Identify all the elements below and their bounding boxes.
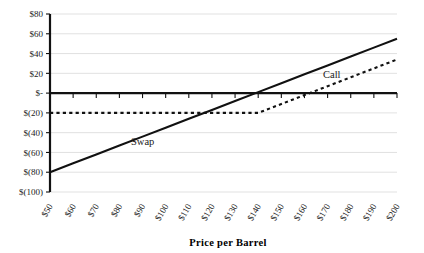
x-tick-label: $200 (384, 202, 402, 223)
x-tick-label: $190 (361, 202, 379, 223)
x-tick-label: $150 (268, 202, 286, 223)
x-axis-labels: $50$60$70$80$90$100$110$120$130$140$150$… (39, 202, 402, 223)
x-tick-label: $130 (222, 202, 240, 223)
gridline-group (50, 14, 397, 192)
x-tick-label: $120 (199, 202, 217, 223)
x-tick-label: $180 (338, 202, 356, 223)
y-tick-label: $80 (30, 9, 44, 19)
x-tick-label: $80 (109, 202, 125, 219)
x-tick-label: $110 (176, 202, 194, 223)
y-tick-label: $(40) (24, 128, 44, 138)
series-label-swap: Swap (131, 136, 154, 147)
y-tick-label: $- (36, 88, 44, 98)
y-tick-label: $40 (30, 49, 44, 59)
y-axis-labels: $80$60$40$20$-$(20)$(40)$(60)$(80)$(100) (19, 9, 44, 197)
chart-plot: $80$60$40$20$-$(20)$(40)$(60)$(80)$(100)… (0, 0, 424, 253)
x-tick-label: $170 (315, 202, 333, 223)
y-tick-label: $(80) (24, 167, 44, 177)
y-tick-label: $(20) (24, 108, 44, 118)
x-tick-label: $90 (132, 202, 148, 219)
y-tick-label: $(60) (24, 148, 44, 158)
y-tick-label: $60 (30, 29, 44, 39)
y-tick-label: $20 (30, 69, 44, 79)
x-tick-label: $50 (39, 202, 55, 219)
x-tick-label: $100 (153, 202, 171, 223)
x-tick-label: $70 (86, 202, 102, 219)
x-tick-label: $140 (245, 202, 263, 223)
x-tick-label: $60 (62, 202, 78, 219)
series-label-call: Call (323, 69, 341, 80)
x-axis-title: Price per Barrel (189, 237, 266, 248)
chart-container: $80$60$40$20$-$(20)$(40)$(60)$(80)$(100)… (0, 0, 424, 253)
y-tick-label: $(100) (19, 187, 43, 197)
x-tick-label: $160 (292, 202, 310, 223)
